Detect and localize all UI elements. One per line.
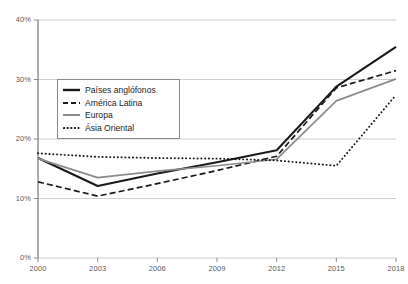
legend-swatch-solid-gray-icon — [63, 110, 80, 120]
x-axis-tick-label: 2015 — [316, 264, 356, 273]
legend-item: América Latina — [63, 97, 174, 110]
y-axis-tick-label: 30% — [0, 75, 31, 84]
x-axis-tick-label: 2003 — [78, 264, 118, 273]
y-axis-tick-label: 20% — [0, 134, 31, 143]
legend-label: Países anglófonos — [85, 85, 156, 95]
legend-swatch-dashed-black-icon — [63, 98, 80, 108]
axis-ticks — [34, 20, 396, 262]
chart-plot-area — [0, 0, 408, 284]
legend-item: Países anglófonos — [63, 84, 174, 97]
y-axis-tick-label: 0% — [0, 253, 31, 262]
x-axis-tick-label: 2006 — [137, 264, 177, 273]
legend-swatch-solid-black-icon — [63, 85, 80, 95]
y-axis-tick-label: 10% — [0, 194, 31, 203]
y-axis-tick-label: 40% — [0, 15, 31, 24]
x-axis-tick-label: 2018 — [376, 264, 408, 273]
legend-label: Europa — [85, 110, 113, 120]
x-axis-tick-label: 2000 — [18, 264, 58, 273]
x-axis-tick-label: 2012 — [257, 264, 297, 273]
line-chart: 0%10%20%30%40% 2000200320062009201220152… — [0, 0, 408, 284]
gridlines — [38, 20, 396, 258]
x-axis-tick-label: 2009 — [197, 264, 237, 273]
legend-item: Europa — [63, 109, 174, 122]
legend-label: América Latina — [85, 98, 142, 108]
legend-item: Ásia Oriental — [63, 122, 174, 135]
legend-swatch-dotted-black-icon — [63, 123, 80, 133]
chart-legend: Países anglófonos América Latina Europa … — [57, 79, 180, 139]
legend-label: Ásia Oriental — [85, 123, 134, 133]
